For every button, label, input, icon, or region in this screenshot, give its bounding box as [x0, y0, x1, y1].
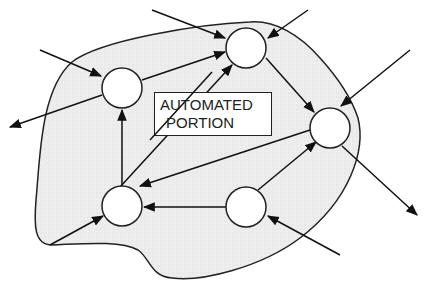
label-line-2: PORTION [166, 114, 234, 131]
system-diagram [0, 0, 427, 292]
node-n5 [226, 187, 266, 227]
input-to-n3 [341, 50, 410, 106]
node-n1 [102, 68, 142, 108]
node-n4 [102, 186, 142, 226]
label-line-1: AUTOMATED [160, 96, 253, 113]
node-n2 [226, 28, 266, 68]
output-from-n3 [342, 146, 417, 215]
node-n3 [310, 108, 350, 148]
